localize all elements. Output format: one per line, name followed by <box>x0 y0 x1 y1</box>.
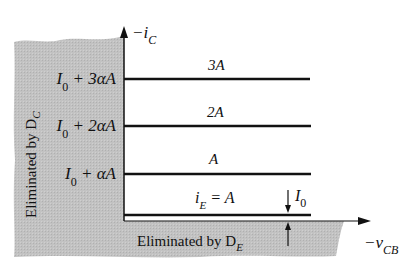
arrow-down-icon <box>285 205 291 213</box>
curve-label-2A: 2A <box>207 104 225 120</box>
y-axis-label: −iC <box>132 23 157 47</box>
curve-label-iE: iE = A <box>195 189 235 211</box>
characteristic-diagram: −iC −vCB I0 + 3αA I0 + 2αA I0 + αA 3A 2A… <box>0 0 404 268</box>
curve-label-3A: 3A <box>207 57 226 73</box>
offset-label: I0 <box>294 187 306 210</box>
x-axis-arrow-icon <box>358 217 371 225</box>
curve-label-A: A <box>208 151 219 167</box>
eliminated-region <box>14 36 344 257</box>
y-axis-arrow-icon <box>120 26 128 38</box>
x-axis-label: −vCB <box>364 233 399 257</box>
